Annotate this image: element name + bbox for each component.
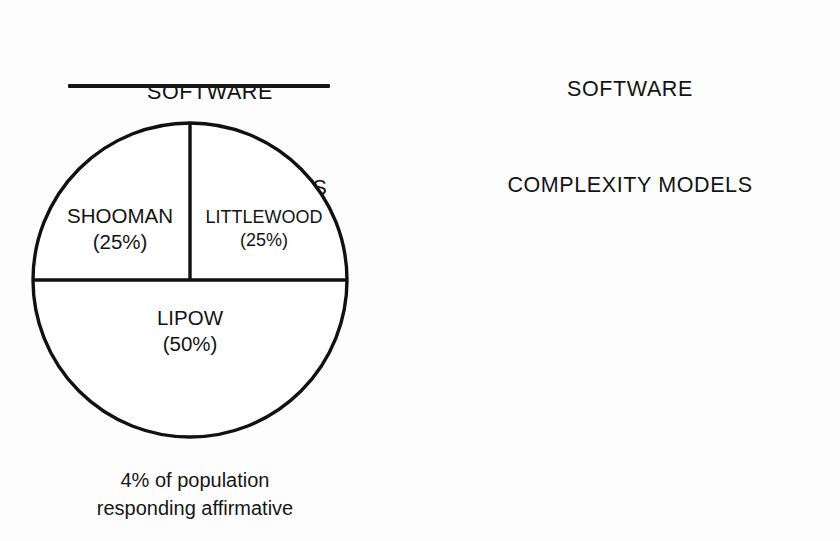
chart-title-reliability-line1: SOFTWARE xyxy=(0,76,420,108)
chart-title-reliability-underline xyxy=(68,84,330,88)
chart-title-complexity: SOFTWARE COMPLEXITY MODELS xyxy=(420,9,840,265)
pie-slice-label-littlewood: LITTLEWOOD (25%) xyxy=(192,206,336,252)
pie-slice-label-lipow: LIPOW (50%) xyxy=(120,305,260,357)
pie-slice-percent-shooman: (25%) xyxy=(48,229,192,255)
pie-slice-percent-lipow: (50%) xyxy=(120,331,260,357)
panel-software-complexity-models: SOFTWARE COMPLEXITY MODELS McCABE (75%) … xyxy=(420,0,840,541)
figure-root: SOFTWARE RELIABILITY MODELS SHOOMAN (25%… xyxy=(0,0,840,541)
pie-slice-label-shooman: SHOOMAN (25%) xyxy=(48,203,192,255)
chart-title-complexity-line2: COMPLEXITY MODELS xyxy=(420,169,840,201)
panel-software-reliability-models: SOFTWARE RELIABILITY MODELS SHOOMAN (25%… xyxy=(0,0,420,541)
pie-slice-name-shooman: SHOOMAN xyxy=(48,203,192,229)
pie-slice-percent-littlewood: (25%) xyxy=(192,229,336,252)
caption-reliability: 4% of population responding affirmative xyxy=(35,466,355,523)
caption-reliability-line1: 4% of population xyxy=(35,466,355,494)
pie-chart-reliability xyxy=(24,114,356,446)
pie-slice-name-lipow: LIPOW xyxy=(120,305,260,331)
pie-slice-name-littlewood: LITTLEWOOD xyxy=(192,206,336,229)
caption-reliability-line2: responding affirmative xyxy=(35,494,355,522)
chart-title-complexity-line1: SOFTWARE xyxy=(420,73,840,105)
